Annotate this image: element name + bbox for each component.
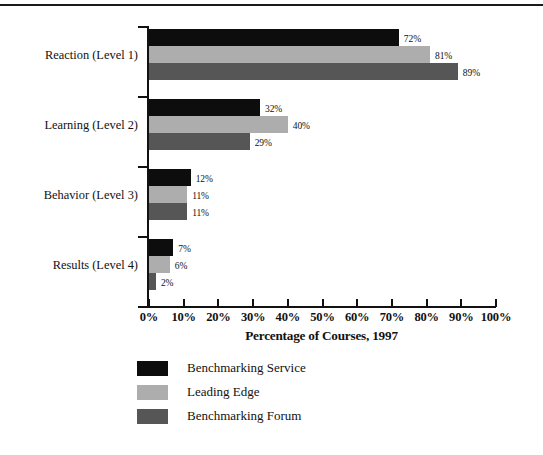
bar-value-label: 81% (435, 51, 452, 61)
category-label: Behavior (Level 3) (0, 188, 138, 203)
legend-item[interactable]: Benchmarking Service (137, 356, 306, 380)
legend-label: Leading Edge (187, 384, 260, 400)
legend-swatch (137, 409, 168, 424)
legend-item[interactable]: Leading Edge (137, 380, 306, 404)
bar-value-label: 32% (265, 104, 282, 114)
legend-swatch (137, 361, 168, 376)
category-label: Results (Level 4) (0, 258, 138, 273)
bar (149, 29, 399, 46)
legend-label: Benchmarking Service (187, 360, 306, 376)
category-axis-tick (138, 236, 148, 238)
bar-value-label: 72% (404, 34, 421, 44)
bar (149, 99, 260, 116)
bar-value-label: 11% (192, 208, 209, 218)
category-axis-tick (138, 306, 148, 308)
bar-value-label: 89% (463, 68, 480, 78)
bar (149, 46, 430, 63)
category-label: Learning (Level 2) (0, 118, 138, 133)
value-axis-tick (183, 299, 185, 307)
bar-value-label: 40% (293, 121, 310, 131)
legend-swatch (137, 385, 168, 400)
category-axis-tick (138, 26, 148, 28)
bar (149, 186, 187, 203)
bar-chart-plot-area: Reaction (Level 1)Learning (Level 2)Beha… (0, 0, 543, 455)
value-axis-tick (322, 299, 324, 307)
bar-value-label: 6% (175, 261, 187, 271)
bar (149, 116, 288, 133)
bar-value-label: 7% (178, 244, 190, 254)
category-label: Reaction (Level 1) (0, 48, 138, 63)
value-axis-tick (217, 299, 219, 307)
legend-item[interactable]: Benchmarking Forum (137, 404, 306, 428)
value-axis-tick-label: 100% (474, 310, 518, 325)
legend-label: Benchmarking Forum (187, 408, 301, 424)
value-axis-tick (460, 299, 462, 307)
bar-value-label: 12% (196, 174, 213, 184)
category-axis-tick (138, 96, 148, 98)
bar (149, 133, 250, 150)
value-axis-tick (495, 299, 497, 307)
bar-value-label: 11% (192, 191, 209, 201)
category-axis-tick (138, 166, 148, 168)
value-axis-tick (252, 299, 254, 307)
bar-value-label: 2% (161, 278, 173, 288)
bar (149, 256, 170, 273)
bar (149, 63, 458, 80)
x-axis-title: Percentage of Courses, 1997 (147, 328, 496, 344)
bar-value-label: 29% (255, 138, 272, 148)
value-axis-tick (356, 299, 358, 307)
bar (149, 239, 173, 256)
bar (149, 273, 156, 290)
bar (149, 203, 187, 220)
value-axis-tick (426, 299, 428, 307)
bar (149, 169, 191, 186)
value-axis-tick (287, 299, 289, 307)
value-axis-tick (391, 299, 393, 307)
chart-figure: Reaction (Level 1)Learning (Level 2)Beha… (0, 0, 543, 455)
chart-legend: Benchmarking ServiceLeading EdgeBenchmar… (137, 356, 306, 428)
value-axis-tick (148, 299, 150, 307)
